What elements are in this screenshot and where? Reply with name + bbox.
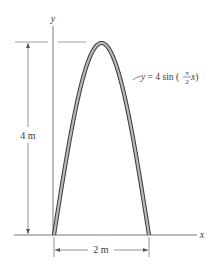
height-dimension-label: 4 m bbox=[20, 130, 36, 141]
curve-equation: y = 4 sin ( bbox=[140, 72, 179, 83]
x-axis-label: x bbox=[199, 229, 205, 240]
arch-outline bbox=[54, 43, 149, 235]
width-dimension-label: 2 m bbox=[93, 244, 109, 255]
equation-leader bbox=[133, 76, 141, 80]
arch-diagram: y x y = 4 sin ( π 2 x) 4 m 2 m bbox=[0, 0, 217, 275]
fraction-denominator: 2 bbox=[185, 78, 189, 86]
fraction-numerator: π bbox=[185, 69, 189, 77]
equation-suffix: x) bbox=[190, 72, 198, 83]
equation-prefix: = 4 sin ( bbox=[145, 72, 179, 83]
y-axis-label: y bbox=[50, 13, 56, 24]
